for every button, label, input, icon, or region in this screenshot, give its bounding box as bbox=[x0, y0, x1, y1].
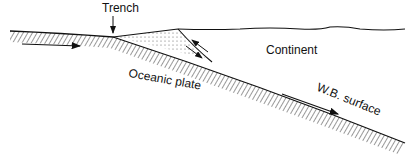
trench-label: Trench bbox=[102, 1, 139, 15]
continent-label: Continent bbox=[266, 43, 317, 57]
diagram-drawing bbox=[0, 0, 412, 154]
subduction-diagram: Trench Continent Oceanic plate W.B. surf… bbox=[0, 0, 412, 154]
continent-surface-line bbox=[178, 27, 405, 30]
